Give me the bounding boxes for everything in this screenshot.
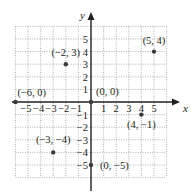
- x-tick-label: −5: [20, 103, 31, 114]
- y-tick-label: 1: [83, 84, 88, 95]
- point-label: (−2, 3): [51, 47, 80, 59]
- x-tick-label: −2: [58, 103, 69, 114]
- x-axis-label: x: [182, 102, 188, 114]
- point-label: (4, −1): [127, 119, 156, 131]
- x-tick-label: 1: [101, 103, 106, 114]
- point-marker-icon: [89, 163, 93, 167]
- y-tick-label: 3: [83, 59, 88, 70]
- point-marker-icon: [152, 49, 156, 53]
- point-label: (0, −5): [100, 160, 129, 172]
- point-label: (−6, 0): [17, 87, 46, 99]
- point: (−2, 3): [51, 47, 80, 66]
- x-axis-arrow-icon: [172, 99, 180, 106]
- point-marker-icon: [51, 150, 55, 154]
- x-tick-label: 5: [151, 103, 156, 114]
- point: (0, −5): [89, 160, 129, 172]
- y-tick-label: −1: [77, 110, 88, 121]
- x-tick-label: 2: [114, 103, 119, 114]
- y-tick-label: −4: [77, 147, 89, 158]
- point-marker-icon: [89, 100, 93, 104]
- y-tick-label: −3: [77, 135, 88, 146]
- x-tick-label: −3: [46, 103, 57, 114]
- y-tick-label: 2: [83, 72, 88, 83]
- point: (5, 4): [143, 35, 166, 54]
- y-axis-arrow-icon: [88, 12, 95, 20]
- y-tick-label: 4: [83, 47, 89, 58]
- point: (4, −1): [127, 112, 156, 130]
- y-tick-label: −2: [77, 122, 88, 133]
- point-label: (0, 0): [96, 86, 119, 98]
- coordinate-plane: x y −5−4−3−2−11234554321−1−2−3−4−5 (5, 4…: [0, 0, 192, 194]
- point-marker-icon: [64, 62, 68, 66]
- x-tick-label: 4: [139, 103, 145, 114]
- x-tick-label: 3: [126, 103, 131, 114]
- point-marker-icon: [139, 112, 143, 116]
- y-tick-label: −5: [77, 160, 88, 171]
- point-marker-icon: [13, 100, 17, 104]
- point-label: (−3, −4): [36, 134, 71, 146]
- y-tick-label: 5: [83, 34, 88, 45]
- y-axis-label: y: [79, 9, 85, 21]
- point-label: (5, 4): [143, 35, 166, 47]
- x-tick-label: −4: [33, 103, 45, 114]
